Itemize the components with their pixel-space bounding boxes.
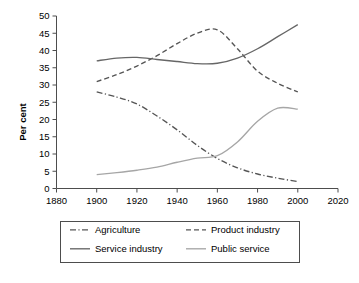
legend-label-public-service: Public service [211,243,270,254]
x-tick-label: 1920 [126,195,147,206]
y-axis-group: 05101520253035404550 Per cent [17,10,57,194]
data-series-group [97,25,298,182]
x-tick-marks [57,189,339,193]
series-line-public-service [97,107,298,174]
y-tick-label: 20 [39,114,50,125]
y-tick-label: 40 [39,45,50,56]
series-line-service-industry [97,25,298,64]
y-tick-label: 15 [39,131,50,142]
y-tick-label: 10 [39,148,50,159]
x-tick-label: 1960 [207,195,228,206]
y-tick-label: 0 [44,183,49,194]
series-line-product-industry [97,29,298,92]
series-line-agriculture [97,92,298,182]
x-tick-label: 1940 [167,195,188,206]
chart-canvas: 05101520253035404550 Per cent 1880190019… [0,0,359,283]
x-tick-labels: 18801900192019401960198020002020 [46,195,349,206]
y-tick-labels: 05101520253035404550 [39,10,50,194]
y-tick-label: 5 [44,166,49,177]
legend-label-product-industry: Product industry [211,224,280,235]
y-tick-marks [53,16,57,189]
legend-label-service-industry: Service industry [95,243,163,254]
x-tick-label: 1900 [86,195,107,206]
y-tick-label: 50 [39,10,50,21]
y-tick-label: 45 [39,28,50,39]
x-tick-label: 1880 [46,195,67,206]
legend: AgricultureProduct industryService indus… [61,222,300,263]
y-tick-label: 35 [39,62,50,73]
x-tick-label: 2000 [287,195,308,206]
x-axis-group: 18801900192019401960198020002020 [46,189,349,206]
line-chart: 05101520253035404550 Per cent 1880190019… [0,0,359,283]
y-axis-title: Per cent [17,102,28,140]
legend-label-agriculture: Agriculture [95,224,140,235]
y-tick-label: 30 [39,79,50,90]
y-tick-label: 25 [39,97,50,108]
x-tick-label: 1980 [247,195,268,206]
x-tick-label: 2020 [327,195,348,206]
